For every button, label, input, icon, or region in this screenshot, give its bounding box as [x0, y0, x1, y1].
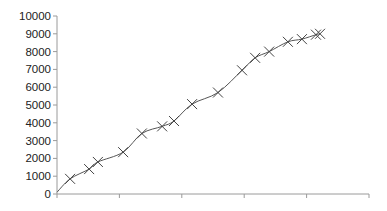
y-axis: 0100020003000400050006000700080009000100…	[19, 10, 57, 200]
x-marker-icon	[84, 164, 94, 174]
x-axis	[57, 194, 369, 198]
line-chart: 0100020003000400050006000700080009000100…	[0, 0, 387, 211]
y-tick-label: 9000	[25, 28, 51, 40]
y-tick-label: 10000	[19, 10, 51, 22]
x-marker-icon	[250, 53, 260, 63]
x-marker-icon	[264, 47, 274, 57]
x-marker-icon	[283, 37, 293, 47]
x-marker-icon	[137, 128, 147, 138]
x-marker-icon	[187, 99, 197, 109]
y-tick-label: 4000	[25, 117, 51, 129]
y-tick-label: 2000	[25, 152, 51, 164]
x-marker-icon	[297, 34, 307, 44]
y-tick-label: 8000	[25, 46, 51, 58]
y-tick-label: 7000	[25, 63, 51, 75]
x-marker-icon	[213, 88, 223, 98]
x-marker-icon	[93, 157, 103, 167]
data-series	[57, 29, 325, 192]
y-tick-label: 5000	[25, 99, 51, 111]
x-marker-icon	[169, 116, 179, 126]
x-marker-icon	[65, 174, 75, 184]
x-marker-icon	[237, 65, 247, 75]
y-tick-label: 3000	[25, 135, 51, 147]
y-tick-label: 6000	[25, 81, 51, 93]
x-marker-icon	[157, 121, 167, 131]
series-line	[57, 34, 320, 192]
x-marker-icon	[118, 147, 128, 157]
y-tick-label: 0	[45, 188, 51, 200]
y-tick-label: 1000	[25, 170, 51, 182]
